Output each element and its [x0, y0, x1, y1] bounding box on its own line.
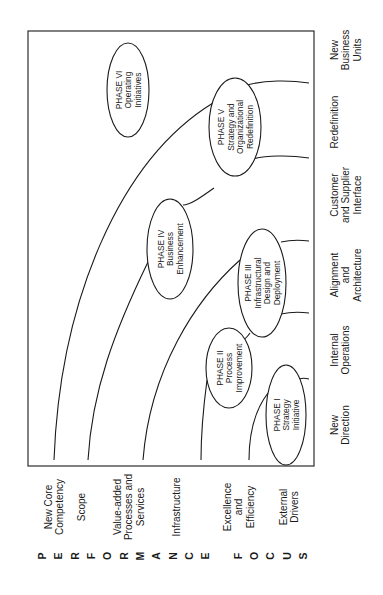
performance-label-line: Competency [54, 479, 65, 535]
focus-label-line: New [329, 414, 340, 435]
phase-diagram: PHASE IStrategyInitiativePHASE IIProcess… [0, 0, 383, 595]
focus-label: InternalOperations [329, 326, 352, 375]
focus-label-line: and Supplier [340, 166, 351, 223]
focus-label-line: Internal [329, 333, 340, 366]
title-letter: E [52, 552, 64, 559]
phase-1-label-line: Strategy [281, 399, 291, 431]
focus-label-line: Redefinition [329, 96, 340, 149]
performance-label-line: Value-added [112, 479, 123, 535]
performance-label-line: New Core [43, 484, 54, 529]
line-p5-bot [249, 156, 309, 160]
focus-label-line: New [329, 39, 340, 60]
title-letter: N [167, 552, 179, 560]
focus-label: NewBusinessUnits [329, 30, 363, 71]
focus-label: Customerand SupplierInterface [329, 166, 363, 223]
focus-label-line: and [340, 267, 351, 284]
line-p3-top [281, 240, 309, 242]
title-letter: R [118, 552, 130, 560]
arc-1 [54, 103, 213, 460]
title-letter: M [134, 551, 146, 560]
phase-3-label-line: Infrastructural [253, 257, 263, 308]
performance-label: Scope [76, 492, 87, 521]
phase-3-label-line: Design and [262, 261, 272, 304]
phase-3-label-line: Deployment [272, 260, 282, 305]
arc-2a [183, 188, 214, 205]
performance-label: New CoreCompetency [43, 479, 66, 535]
phase-4-label-line: Business [165, 232, 175, 266]
title-letter: O [248, 552, 260, 560]
title-letter: F [232, 552, 244, 559]
title-letter: U [281, 552, 293, 560]
arc-4b [201, 380, 207, 460]
performance-label: Infrastructure [171, 477, 182, 536]
title-letter: P [36, 552, 48, 559]
title-letter: O [101, 552, 113, 560]
title-letter: C [183, 552, 195, 560]
phase-5-label-line: Strategy and [226, 103, 236, 151]
performance-label: ExcellenceandEfficiency [222, 482, 256, 531]
focus-label-line: Direction [340, 405, 351, 444]
phase-5-label-line: Redefinition [245, 105, 255, 150]
focus-label-line: Operations [340, 326, 351, 375]
phase-6-label-line: Operating [123, 71, 133, 108]
performance-label-line: and [233, 499, 244, 516]
phase-5-label-line: Organizational [235, 100, 245, 154]
performance-label-line: Efficiency [245, 486, 256, 529]
performance-label-line: Infrastructure [171, 477, 182, 536]
line-p5-top [247, 81, 309, 85]
performance-label-line: External [278, 489, 289, 526]
phase-1-label-line: Initiative [291, 399, 301, 430]
phase-2-label-line: PHASE II [215, 350, 225, 385]
focus-label-line: Architecture [352, 248, 363, 302]
phase-3-label-line: PHASE III [243, 264, 253, 302]
focus-label: NewDirection [329, 405, 352, 444]
phase-6-label: PHASE VIOperatingInitiatives [114, 71, 143, 110]
phase-1-label-line: PHASE I [272, 398, 282, 431]
performance-label-line: Processes and [123, 474, 134, 540]
performance-label-line: Scope [76, 492, 87, 521]
focus-label-line: Business [340, 30, 351, 71]
title-letter: R [69, 552, 81, 560]
phase-2-label-line: Process [224, 353, 234, 383]
performance-axis-labels: New CoreCompetencyScopeValue-addedProces… [43, 474, 301, 540]
focus-label-line: Units [352, 39, 363, 62]
title-letter: C [264, 552, 276, 560]
phase-3-label: PHASE IIIInfrastructuralDesign andDeploy… [243, 257, 282, 308]
phase-5-label-line: PHASE V [216, 108, 226, 145]
focus-label: Redefinition [329, 96, 340, 149]
performance-focus-title: PERFORMANCEFOCUS [36, 551, 309, 560]
phase-2-label-line: Improvement [234, 343, 244, 393]
performance-label: Value-addedProcesses andServices [112, 474, 146, 540]
performance-label-line: Excellence [222, 482, 233, 531]
phase-6-label-line: PHASE VI [114, 71, 124, 110]
performance-label: ExternalDrivers [278, 489, 301, 526]
line-p3-bot [281, 312, 309, 314]
focus-label-line: Interface [352, 175, 363, 214]
phase-6-label-line: Initiatives [133, 73, 143, 108]
title-letter: F [85, 552, 97, 559]
arc-2b [88, 262, 148, 460]
focus-label-line: Alignment [329, 253, 340, 298]
phase-4-label-line: PHASE IV [156, 229, 166, 268]
title-letter: E [199, 552, 211, 559]
phase-4-label-line: Enhancement [175, 222, 185, 274]
focus-label-line: Customer [329, 173, 340, 217]
title-letter: S [297, 552, 309, 559]
performance-label-line: Drivers [289, 491, 300, 523]
focus-label: AlignmentandArchitecture [329, 248, 363, 302]
title-letter: A [150, 552, 162, 560]
focus-axis-labels: NewDirectionInternalOperationsAlignmenta… [329, 30, 363, 445]
arc-5 [249, 393, 268, 460]
phase-1-label: PHASE IStrategyInitiative [272, 398, 301, 431]
performance-label-line: Services [135, 488, 146, 526]
